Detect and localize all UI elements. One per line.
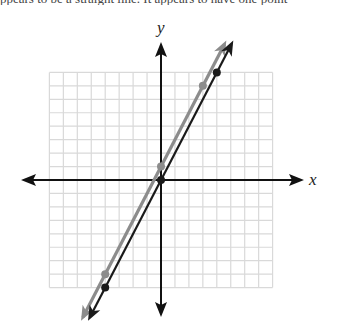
data-point xyxy=(101,284,109,292)
y-axis-label: y xyxy=(155,18,165,37)
data-point xyxy=(213,68,221,76)
data-point xyxy=(199,82,207,90)
data-point xyxy=(157,176,165,184)
data-point xyxy=(101,270,109,278)
data-point xyxy=(157,163,165,171)
coordinate-plane: x y xyxy=(0,0,338,335)
x-axis-label: x xyxy=(308,170,317,189)
